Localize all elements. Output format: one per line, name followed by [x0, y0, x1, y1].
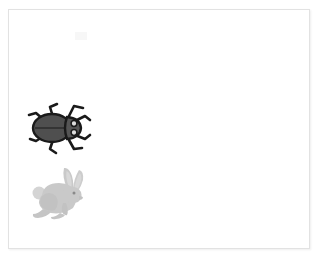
- rabbit-icon: [29, 165, 91, 223]
- illustration-canvas: [0, 0, 322, 265]
- card-frame: [8, 9, 310, 249]
- beetle-figure[interactable]: [23, 96, 95, 158]
- scan-artifact: [75, 32, 87, 40]
- rabbit-figure[interactable]: [29, 165, 91, 223]
- beetle-icon: [23, 96, 95, 158]
